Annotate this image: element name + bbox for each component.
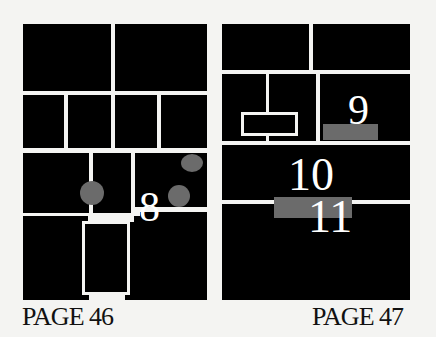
panel-number-9: 9 — [348, 89, 369, 131]
page-47-layout: 9 10 11 — [222, 24, 410, 300]
panel-46-1 — [23, 24, 111, 91]
panel-46-7 — [23, 153, 89, 213]
page-label-47: PAGE 47 — [312, 304, 403, 330]
page-46-layout: 8 — [23, 24, 207, 300]
marker-circle — [80, 181, 104, 205]
marker-circle — [168, 185, 190, 207]
panel-47-1 — [222, 24, 309, 70]
marker-circle — [181, 154, 203, 172]
panel-46-4 — [68, 95, 111, 148]
gutter-bottom — [89, 295, 125, 300]
panel-number-11: 11 — [308, 194, 352, 240]
page-label-46: PAGE 46 — [22, 304, 113, 330]
panel-47-inset — [241, 112, 298, 136]
panel-number-8: 8 — [139, 186, 160, 228]
panel-46-6 — [161, 95, 207, 148]
panel-46-5 — [115, 95, 157, 148]
panel-46-2 — [115, 24, 207, 91]
panel-47-2 — [313, 24, 410, 70]
panel-46-inset — [82, 221, 130, 295]
panel-46-3 — [23, 95, 64, 148]
